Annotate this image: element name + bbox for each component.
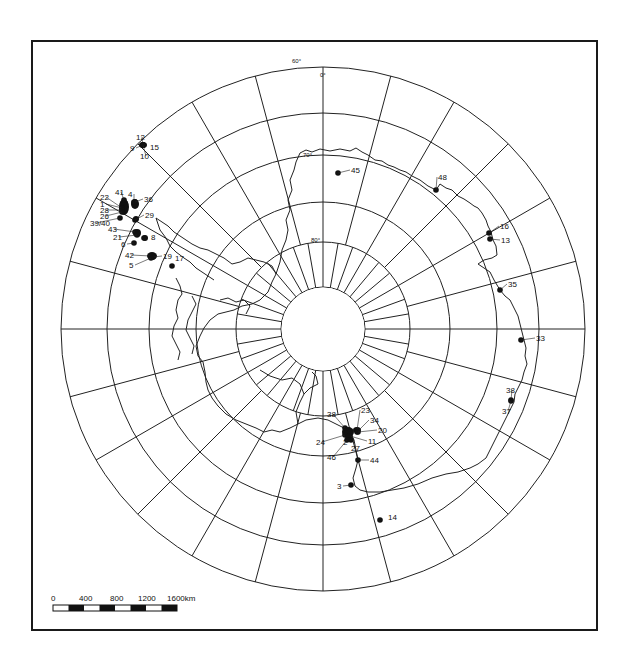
station-marker: 8 xyxy=(141,233,156,242)
station-marker: 3 xyxy=(337,482,354,491)
meridian-inner xyxy=(248,286,287,309)
meridian-outer xyxy=(255,413,300,582)
station-label: 5 xyxy=(129,261,134,270)
station-label: 4 xyxy=(128,190,133,199)
meridian-outer xyxy=(138,144,262,268)
meridian-inner xyxy=(293,368,308,410)
scale-tick-400: 400 xyxy=(79,594,93,603)
station-marker: 33 xyxy=(518,334,545,343)
leader-line xyxy=(500,284,507,290)
meridian-outer xyxy=(255,76,300,245)
meridian-inner xyxy=(359,350,398,373)
station-marker: 46 xyxy=(327,437,350,462)
station-label: 12 xyxy=(136,133,145,142)
leader-line xyxy=(489,226,499,233)
meridian-inner xyxy=(337,247,352,289)
meridian-inner xyxy=(350,262,379,296)
meridian-outer xyxy=(385,144,509,268)
station-label: 38 xyxy=(506,386,515,395)
meridian-inner xyxy=(308,370,316,414)
leader-line xyxy=(135,258,151,265)
meridian-inner xyxy=(362,343,404,358)
station-marker: 6 xyxy=(121,240,137,249)
meridian-inner xyxy=(344,365,367,404)
station-label: 6 xyxy=(121,240,126,249)
meridian-outer xyxy=(346,76,391,245)
meridian-inner xyxy=(256,273,290,302)
station-marker: 45 xyxy=(335,166,360,176)
station-label: 3 xyxy=(337,482,342,491)
station-label: 37 xyxy=(502,407,511,416)
leader-line xyxy=(322,435,345,442)
scale-bar: 0 400 800 1200 1600km xyxy=(51,594,196,611)
station-label: 42 xyxy=(125,251,134,260)
meridian-inner xyxy=(237,314,281,322)
station-marker: 37 xyxy=(502,398,514,416)
meridian-inner xyxy=(355,356,389,385)
lon-0-label: 0° xyxy=(320,72,326,78)
meridian-outer xyxy=(398,373,550,461)
scale-tick-1200: 1200 xyxy=(138,594,156,603)
station-label: 27 xyxy=(351,444,360,453)
station-label: 15 xyxy=(150,143,159,152)
meridian-inner xyxy=(330,370,338,414)
meridian-inner xyxy=(241,343,283,358)
station-marker: 48 xyxy=(433,173,447,193)
meridian-outer xyxy=(192,404,280,556)
graticule-labels: 60° 0° 70° 80° xyxy=(292,58,326,243)
meridian-outer xyxy=(70,261,239,306)
station-marker: 36 xyxy=(132,195,153,205)
meridian-inner xyxy=(267,262,296,296)
scale-tick-0: 0 xyxy=(51,594,56,603)
station-label: 38 xyxy=(327,410,336,419)
lat-60-label: 60° xyxy=(292,58,302,64)
meridian-inner xyxy=(355,273,389,302)
station-label: 14 xyxy=(388,513,397,522)
meridian-outer xyxy=(138,391,262,515)
meridian-inner xyxy=(241,299,283,314)
station-marker: 20 xyxy=(355,426,387,435)
meridian-inner xyxy=(364,336,408,344)
leader-line xyxy=(357,410,360,430)
meridian-inner xyxy=(293,247,308,289)
station-label: 35 xyxy=(508,280,517,289)
station-label: 8 xyxy=(151,233,156,242)
meridian-inner xyxy=(337,368,352,410)
station-label: 36 xyxy=(144,195,153,204)
antarctic-station-map: 12159104143622128262939/4043218642191754… xyxy=(0,0,628,664)
meridian-inner xyxy=(308,243,316,287)
station-marker: 10 xyxy=(140,142,149,161)
meridian-inner xyxy=(364,314,408,322)
scale-tick-1600: 1600km xyxy=(167,594,196,603)
station-label: 29 xyxy=(145,211,154,220)
station-label: 16 xyxy=(500,222,509,231)
meridian-inner xyxy=(280,254,303,293)
station-dot xyxy=(377,517,383,523)
station-label: 44 xyxy=(370,456,379,465)
meridian-inner xyxy=(237,336,281,344)
meridian-inner xyxy=(344,254,367,293)
station-label: 11 xyxy=(368,437,377,446)
station-marker: 13 xyxy=(487,236,510,245)
meridian-inner xyxy=(248,350,287,373)
station-label: 9 xyxy=(130,144,135,153)
station-label: 48 xyxy=(438,173,447,182)
meridian-outer xyxy=(407,352,576,397)
pole-disc xyxy=(282,288,365,371)
meridian-outer xyxy=(70,352,239,397)
station-label: 17 xyxy=(175,254,184,263)
meridian-inner xyxy=(330,243,338,287)
scale-tick-800: 800 xyxy=(110,594,124,603)
meridian-inner xyxy=(359,286,398,309)
station-label: 19 xyxy=(163,252,172,261)
station-label: 10 xyxy=(140,152,149,161)
meridian-outer xyxy=(385,391,509,515)
station-label: 33 xyxy=(536,334,545,343)
station-label: 23 xyxy=(361,406,370,415)
meridian-inner xyxy=(280,365,303,404)
station-dot xyxy=(141,235,147,241)
meridian-outer xyxy=(407,261,576,306)
meridian-inner xyxy=(362,299,404,314)
meridian-outer xyxy=(96,373,248,461)
station-label: 41 xyxy=(115,188,124,197)
